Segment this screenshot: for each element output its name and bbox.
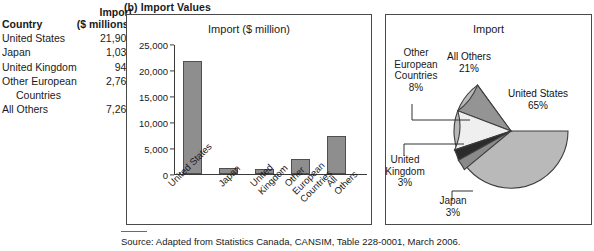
pie-label-name-line: United bbox=[375, 154, 435, 166]
figure-root: Country Import ($ millions) United State… bbox=[0, 0, 594, 251]
pie-label-percent: 65% bbox=[490, 100, 586, 112]
pie-label-percent: 3% bbox=[430, 207, 476, 219]
bar-slot bbox=[210, 45, 246, 174]
column-header-import-line2: ($ millions) bbox=[77, 18, 132, 30]
pie-label-name-line: Countries bbox=[383, 70, 449, 82]
pie-label-percent: 3% bbox=[375, 177, 435, 189]
source-divider bbox=[121, 231, 147, 232]
pie-chart-panel: Import United States bbox=[385, 14, 592, 225]
row-import-value: 942 bbox=[77, 61, 132, 75]
table-row-continuation: Countries bbox=[2, 89, 132, 103]
x-axis-label-slot: Japan bbox=[210, 177, 246, 237]
pie-label-name: United States bbox=[490, 88, 586, 100]
bar-slot bbox=[319, 45, 355, 174]
x-axis-labels: United States Japan United Kingdom Other… bbox=[174, 177, 355, 237]
row-import-value-empty bbox=[77, 89, 132, 103]
import-data-table: Country Import ($ millions) United State… bbox=[2, 6, 120, 117]
x-axis-label-slot: United Kingdom bbox=[246, 177, 282, 237]
table-row: All Others 7,263 bbox=[2, 103, 132, 117]
pie-label-united-states: United States 65% bbox=[490, 88, 586, 111]
row-import-value: 21,906 bbox=[77, 32, 132, 46]
row-country-name-continued: Countries bbox=[2, 89, 77, 103]
table-header-row: Country Import ($ millions) bbox=[2, 6, 132, 32]
table-row: United Kingdom 942 bbox=[2, 61, 132, 75]
pie-label-name-line: Kingdom bbox=[375, 166, 435, 178]
row-import-value: 1,039 bbox=[77, 46, 132, 60]
row-country-name: United Kingdom bbox=[2, 61, 77, 75]
section-header: (b) Import Values bbox=[124, 1, 211, 13]
table-row: United States 21,906 bbox=[2, 32, 132, 46]
row-import-value: 2,763 bbox=[77, 75, 132, 89]
pie-label-name-line: European bbox=[383, 59, 449, 71]
pie-label-name-line: Other bbox=[383, 47, 449, 59]
pie-label-name: Japan bbox=[430, 195, 476, 207]
bar-chart-panel: Import ($ million) 25,000 20,000 15,000 … bbox=[126, 14, 372, 225]
pie-label-percent: 8% bbox=[383, 82, 449, 94]
bar-slot bbox=[246, 45, 282, 174]
row-country-name: United States bbox=[2, 32, 77, 46]
column-header-country: Country bbox=[2, 6, 77, 32]
row-country-name: Japan bbox=[2, 46, 77, 60]
row-import-value: 7,263 bbox=[77, 103, 132, 117]
x-axis-label-slot: United States bbox=[174, 177, 210, 237]
pie-label-united-kingdom: United Kingdom 3% bbox=[375, 154, 435, 189]
table-row: Japan 1,039 bbox=[2, 46, 132, 60]
pie-label-other-european-countries: Other European Countries 8% bbox=[383, 47, 449, 93]
source-note: Source: Adapted from Statistics Canada, … bbox=[121, 236, 460, 247]
table-row: Other European 2,763 bbox=[2, 75, 132, 89]
x-axis-label-slot: All Others bbox=[319, 177, 355, 237]
pie-label-japan: Japan 3% bbox=[430, 195, 476, 218]
row-country-name: All Others bbox=[2, 103, 77, 117]
bar-chart-title: Import ($ million) bbox=[127, 23, 371, 35]
row-country-name: Other European bbox=[2, 75, 77, 89]
x-axis-label-slot: Other European Countries bbox=[283, 177, 319, 237]
